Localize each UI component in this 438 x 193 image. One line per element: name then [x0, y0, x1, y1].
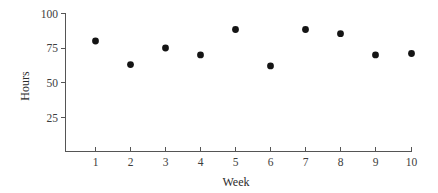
x-tick-label-2: 2 — [128, 156, 134, 168]
x-tick-label-9: 9 — [373, 156, 379, 168]
y-axis: 100 75 50 25 — [41, 8, 66, 153]
y-tick-label-50: 50 — [47, 77, 59, 89]
x-tick-label-3: 3 — [163, 156, 169, 168]
y-tick-label-75: 75 — [47, 42, 59, 54]
data-point — [127, 61, 134, 68]
y-tick-label-100: 100 — [41, 8, 59, 20]
data-point — [232, 26, 239, 33]
x-tick-label-10: 10 — [406, 156, 418, 168]
x-tick-label-4: 4 — [198, 156, 204, 168]
x-tick-label-6: 6 — [268, 156, 274, 168]
data-point — [302, 26, 309, 33]
data-point — [372, 52, 379, 59]
x-tick-label-7: 7 — [303, 156, 309, 168]
data-point — [197, 52, 204, 59]
x-tick-label-1: 1 — [93, 156, 99, 168]
data-point — [408, 50, 415, 57]
data-point — [162, 45, 169, 52]
y-tick-label-25: 25 — [47, 112, 59, 124]
x-tick-label-8: 8 — [338, 156, 344, 168]
data-point — [267, 63, 274, 70]
x-tick-label-5: 5 — [233, 156, 239, 168]
data-series-hours — [92, 26, 415, 69]
scatter-chart: 100 75 50 25 1 2 3 4 5 6 7 8 9 1 — [0, 0, 438, 193]
plot-area: 100 75 50 25 1 2 3 4 5 6 7 8 9 1 — [0, 0, 438, 193]
y-axis-title: Hours — [18, 71, 32, 101]
x-axis: 1 2 3 4 5 6 7 8 9 10 — [65, 147, 418, 168]
data-point — [337, 30, 344, 37]
x-axis-title: Week — [222, 175, 249, 189]
data-point — [92, 38, 99, 45]
